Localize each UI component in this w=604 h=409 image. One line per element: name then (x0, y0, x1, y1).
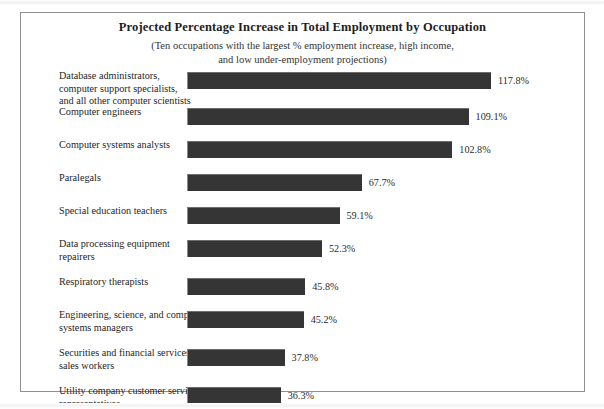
bar-category-label: Data processing equipmentrepairers (21, 237, 187, 263)
bar (187, 240, 322, 257)
figure-frame: Projected Percentage Increase in Total E… (20, 12, 585, 392)
bar-category-label-line: Securities and financial services (59, 347, 187, 360)
bar-value-label: 37.8% (292, 352, 318, 363)
bar (187, 349, 285, 366)
bar-track: 109.1% (187, 105, 586, 138)
bar-row: Engineering, science, and computersystem… (21, 308, 586, 346)
chart-subtitle-line-2: and low under-employment projections) (21, 53, 584, 67)
bar-value-label: 45.2% (311, 314, 337, 325)
scan-edge-top (0, 0, 604, 5)
bar (187, 141, 452, 158)
bar-category-label-line: Utility company customer service (59, 385, 187, 398)
bar-value-label: 45.8% (312, 281, 338, 292)
scan-edge-bottom (0, 403, 604, 409)
bar-row: Special education teachers59.1% (21, 204, 586, 237)
bar-row: Computer systems analysts102.8% (21, 138, 586, 171)
bar-category-label: Securities and financial servicessales w… (21, 346, 187, 372)
bar-category-label-line: sales workers (59, 360, 187, 373)
bar-category-label-line: Respiratory therapists (59, 276, 187, 289)
bar-track: 117.8% (187, 69, 586, 102)
bar-category-label: Paralegals (21, 171, 187, 185)
bar (187, 207, 340, 224)
bar-track: 59.1% (187, 204, 586, 237)
bar-category-label-line: Computer systems analysts (59, 139, 187, 152)
bar-row: Respiratory therapists45.8% (21, 275, 586, 308)
bar-value-label: 102.8% (459, 144, 490, 155)
chart-subtitle: (Ten occupations with the largest % empl… (21, 39, 584, 67)
bar-category-label-line: Paralegals (59, 172, 187, 185)
bar-category-label-line: repairers (59, 251, 187, 264)
bar-category-label: Respiratory therapists (21, 275, 187, 289)
bar-chart-plot-area: Database administrators,computer support… (21, 69, 586, 409)
bar-row: Securities and financial servicessales w… (21, 346, 586, 384)
title-block: Projected Percentage Increase in Total E… (21, 13, 584, 67)
bar-track: 45.8% (187, 275, 586, 308)
chart-subtitle-line-1: (Ten occupations with the largest % empl… (21, 39, 584, 53)
bar-category-label: Computer engineers (21, 105, 187, 119)
bar (187, 174, 362, 191)
bar-category-label: Engineering, science, and computersystem… (21, 308, 187, 334)
bar (187, 387, 281, 404)
bar-category-label-line: computer support specialists, (59, 83, 187, 96)
bar-category-label-line: Data processing equipment (59, 238, 187, 251)
chart-title: Projected Percentage Increase in Total E… (21, 20, 584, 36)
bar-category-label: Database administrators,computer support… (21, 69, 187, 108)
bar-value-label: 36.3% (288, 390, 314, 401)
bar-category-label-line: Special education teachers (59, 205, 187, 218)
bar-track: 102.8% (187, 138, 586, 171)
bar-value-label: 109.1% (476, 111, 507, 122)
bar-category-label-line: Database administrators, (59, 70, 187, 83)
bar-row: Paralegals67.7% (21, 171, 586, 204)
bar-value-label: 67.7% (369, 177, 395, 188)
bar-track: 52.3% (187, 237, 586, 270)
bar (187, 278, 305, 295)
bar-category-label: Computer systems analysts (21, 138, 187, 152)
bar-category-label: Special education teachers (21, 204, 187, 218)
bar-track: 45.2% (187, 308, 586, 341)
bar-track: 37.8% (187, 346, 586, 379)
bar-track: 67.7% (187, 171, 586, 204)
bar-category-label-line: Computer engineers (59, 106, 187, 119)
bar-row: Computer engineers109.1% (21, 105, 586, 138)
bar (187, 108, 469, 125)
bar-row: Data processing equipmentrepairers52.3% (21, 237, 586, 275)
bar-value-label: 59.1% (347, 210, 373, 221)
bar (187, 311, 304, 328)
bar-value-label: 117.8% (498, 75, 529, 86)
bar-value-label: 52.3% (329, 243, 355, 254)
bar-category-label-line: systems managers (59, 322, 187, 335)
bar (187, 72, 491, 89)
bar-category-label-line: Engineering, science, and computer (59, 309, 187, 322)
